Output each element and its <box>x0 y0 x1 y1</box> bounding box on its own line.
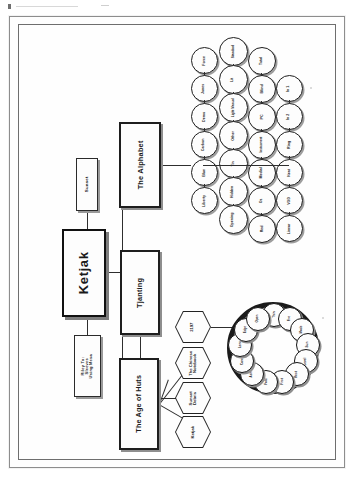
hexagon-label: Sunset Debris <box>189 385 198 411</box>
hexagon-node-ketjak[interactable]: Ketjak <box>175 416 211 448</box>
root-node-label: Ketjak <box>77 252 91 295</box>
ring-circle-cluster: ThinFireModeSunLevelRestFirstFoldAshCore… <box>223 289 323 407</box>
node-the-age-of-huts[interactable]: The Age of Huts <box>119 358 159 450</box>
alphabet-circle-label-wrap: In 1 <box>277 76 302 101</box>
alphabet-circle-node[interactable]: Opening <box>219 205 248 234</box>
alphabet-circle-label: Lit <box>232 77 236 81</box>
speck-mark <box>8 4 11 9</box>
alphabet-circle-node[interactable]: Blue <box>191 159 218 186</box>
alphabet-circle-node[interactable]: Demo <box>191 103 218 130</box>
alphabet-circle-label: Liberty <box>203 195 207 207</box>
ring-circle-label: Lens <box>239 341 242 348</box>
alphabet-circle-label-wrap: Oz <box>249 188 275 214</box>
alphabet-circle-label: Total <box>260 57 264 65</box>
alphabet-circle-node[interactable]: Carbon <box>191 131 218 158</box>
alphabet-circle-node[interactable]: Medial <box>248 159 276 187</box>
hexagon-node-sunset-debris[interactable]: Sunset Debris <box>175 382 211 414</box>
node-the-alphabet-label: The Alphabet <box>136 141 144 190</box>
alphabet-circle-label-wrap: Light Manual <box>220 94 247 121</box>
alphabet-circle-label-wrap: Tin <box>220 150 247 177</box>
alphabet-circle-label-wrap: In 2 <box>277 104 302 129</box>
alphabet-circle-label: Instrument <box>260 137 263 153</box>
alphabet-circle-label: Opening <box>232 212 236 227</box>
alphabet-circle-label: Hidden <box>232 185 236 197</box>
alphabet-circle-label-wrap: Instrument <box>249 132 275 158</box>
node-tjanting[interactable]: Tjanting <box>120 250 160 335</box>
node-riley-note[interactable]: Riley To: Sleeves Using Mesa <box>74 335 101 397</box>
alphabet-circle-label: Blue <box>203 169 207 177</box>
alphabet-circle-node[interactable]: Lit <box>219 65 248 94</box>
alphabet-circle-label: Oz <box>260 199 264 204</box>
node-sunset[interactable]: Sunset <box>76 158 98 211</box>
alphabet-circle-label-wrap: Other <box>220 122 247 149</box>
alphabet-circle-node[interactable]: Jones <box>191 75 218 102</box>
alphabet-circle-label: Blind <box>260 85 264 94</box>
node-riley-note-label: Riley To: Sleeves Using Mesa <box>81 354 94 379</box>
alphabet-circle-label-wrap: Opening <box>220 206 247 233</box>
alphabet-circle-node[interactable]: Tin <box>219 149 248 178</box>
alphabet-circle-label-wrap: Lit <box>220 66 247 93</box>
alphabet-circle-label-wrap: Neat <box>277 160 302 185</box>
alphabet-circle-label-wrap: Jones <box>192 76 217 101</box>
alphabet-circle-node[interactable]: In 2 <box>276 103 303 130</box>
alphabet-circle-label: Light Manual <box>232 98 235 117</box>
alphabet-circle-label-wrap: Linear <box>277 216 302 241</box>
ring-circle-label: Thin <box>272 312 275 318</box>
hexagon-label: 2197 <box>191 322 195 331</box>
alphabet-circle-node[interactable]: Instrument <box>248 131 276 159</box>
connector-grid-tiebar <box>203 165 289 166</box>
alphabet-circle-label: Red <box>260 226 264 233</box>
alphabet-circle-node[interactable]: Force <box>191 47 218 74</box>
alphabet-circle-node[interactable]: VOD <box>276 187 303 214</box>
alphabet-circle-node[interactable]: In 1 <box>276 75 303 102</box>
alphabet-circle-label: Force <box>203 56 207 66</box>
alphabet-circle-node[interactable]: Standard <box>219 37 248 66</box>
alphabet-circle-node[interactable]: Liberty <box>191 187 218 214</box>
connector-root-to-sunset <box>87 211 88 229</box>
connector-alphabet-to-grid <box>161 165 191 166</box>
alphabet-circle-label: Carbon <box>203 138 207 151</box>
node-tjanting-label-wrap: Tjanting <box>122 252 158 333</box>
alphabet-circle-node[interactable]: Blind <box>248 75 276 103</box>
ring-circle-label: Fold <box>264 379 267 385</box>
alphabet-circle-label-wrap: Total <box>249 48 275 74</box>
ring-circle-node[interactable]: Open <box>246 307 270 331</box>
hexagon-label: The Chinese Notebook <box>189 350 198 376</box>
alphabet-circle-node[interactable]: Other <box>219 121 248 150</box>
hexagon-label-wrap: Ketjak <box>175 416 211 448</box>
hexagon-node-the-chinese-notebook[interactable]: The Chinese Notebook <box>175 347 211 379</box>
ring-circle-label: First <box>281 379 284 386</box>
streak-mark <box>101 5 109 6</box>
paper-speck <box>322 317 324 319</box>
alphabet-circle-label: PC <box>260 114 264 119</box>
alphabet-circle-node[interactable]: Oz <box>248 187 276 215</box>
root-node-ketjak[interactable]: Ketjak <box>62 229 106 317</box>
alphabet-circle-label-wrap: Force <box>192 48 217 73</box>
hexagon-label-wrap: Sunset Debris <box>175 382 211 414</box>
node-the-alphabet-label-wrap: The Alphabet <box>121 124 159 206</box>
alphabet-circle-label: VOD <box>288 197 292 205</box>
alphabet-circle-node[interactable]: Total <box>248 47 276 75</box>
alphabet-circle-node[interactable]: Red <box>248 215 276 243</box>
ring-circle-label: Rest <box>295 371 298 378</box>
alphabet-circle-node[interactable]: Neat <box>276 159 303 186</box>
alphabet-circle-label-wrap: Hidden <box>220 178 247 205</box>
node-the-alphabet[interactable]: The Alphabet <box>119 122 161 208</box>
connector-root-to-note <box>87 317 88 335</box>
alphabet-circle-node[interactable]: Linear <box>276 215 303 242</box>
node-sunset-label: Sunset <box>85 177 90 193</box>
hexagon-node-2197[interactable]: 2197 <box>175 311 211 343</box>
scanner-artifact-marks <box>6 3 116 13</box>
alphabet-circle-node[interactable]: Ring <box>276 131 303 158</box>
alphabet-circle-label-wrap: Carbon <box>192 132 217 157</box>
alphabet-circle-label: In 2 <box>288 113 292 119</box>
root-node-label-wrap: Ketjak <box>64 231 104 315</box>
alphabet-circle-node[interactable]: Light Manual <box>219 93 248 122</box>
alphabet-circle-label: Neat <box>288 169 292 177</box>
ring-circle-label: Sun <box>306 342 309 348</box>
alphabet-circle-label-wrap: Medial <box>249 160 275 186</box>
alphabet-circle-label-wrap: Blind <box>249 76 275 102</box>
hexagon-label-wrap: The Chinese Notebook <box>175 347 211 379</box>
alphabet-circle-node[interactable]: PC <box>248 103 276 131</box>
alphabet-circle-node[interactable]: Hidden <box>219 177 248 206</box>
